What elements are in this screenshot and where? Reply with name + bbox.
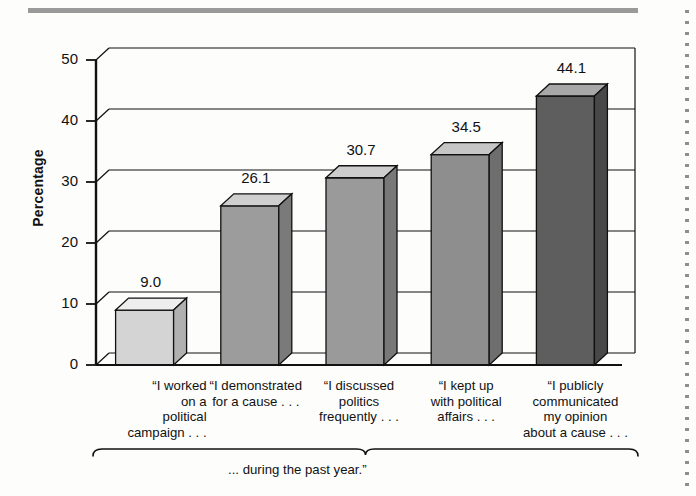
figure-container: Percentage 01020304050 9.026.130.734.544… xyxy=(0,0,696,496)
category-label-line: communicated xyxy=(509,394,641,410)
category-label-line: “I publicly xyxy=(509,378,641,394)
value-label-4: 34.5 xyxy=(421,118,511,135)
y-tick-label-20: 20 xyxy=(44,233,78,250)
bar-front-3 xyxy=(326,178,384,365)
y-tick-label-50: 50 xyxy=(44,50,78,67)
bar-side-5 xyxy=(594,84,607,365)
y-tick-label-0: 0 xyxy=(44,355,78,372)
value-label-2: 26.1 xyxy=(211,169,301,186)
bar-side-3 xyxy=(384,166,397,365)
bar-front-5 xyxy=(536,96,594,365)
y-tick-label-10: 10 xyxy=(44,294,78,311)
grid-connector-0 xyxy=(96,353,109,365)
bar-front-4 xyxy=(431,155,489,365)
bar-2 xyxy=(221,194,292,365)
grid-connector-50 xyxy=(96,48,109,60)
category-label-line: “I worked xyxy=(75,378,207,394)
y-tick-label-40: 40 xyxy=(44,111,78,128)
bar-4 xyxy=(431,143,502,365)
value-label-3: 30.7 xyxy=(316,141,406,158)
bar-5 xyxy=(536,84,607,365)
axis-ticks xyxy=(86,60,96,365)
bar-side-2 xyxy=(279,194,292,365)
category-label-line: about a cause . . . xyxy=(509,425,641,441)
brace-path xyxy=(93,449,638,456)
grid-connector-10 xyxy=(96,292,109,304)
x-axis-caption: ... during the past year.” xyxy=(228,462,367,477)
grid-connector-40 xyxy=(96,109,109,121)
category-label-1: “I workedon apoliticalcampaign . . . xyxy=(75,378,207,440)
y-tick-label-30: 30 xyxy=(44,172,78,189)
value-label-1: 9.0 xyxy=(106,273,196,290)
category-label-line: on a xyxy=(75,394,207,410)
category-label-5: “I publiclycommunicatedmy opinionabout a… xyxy=(509,378,641,440)
category-label-line: campaign . . . xyxy=(75,425,207,441)
category-brace xyxy=(93,449,638,456)
category-label-line: political xyxy=(75,409,207,425)
bars xyxy=(116,84,608,365)
bar-3 xyxy=(326,166,397,365)
bar-side-1 xyxy=(174,298,187,365)
value-label-5: 44.1 xyxy=(526,59,616,76)
grid-connector-20 xyxy=(96,231,109,243)
bar-front-1 xyxy=(116,310,174,365)
bar-front-2 xyxy=(221,206,279,365)
bar-1 xyxy=(116,298,187,365)
category-label-line: my opinion xyxy=(509,409,641,425)
bar-side-4 xyxy=(489,143,502,365)
grid-connector-30 xyxy=(96,170,109,182)
